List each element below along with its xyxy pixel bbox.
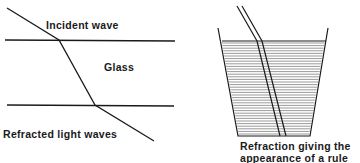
beaker-diagram — [218, 6, 328, 136]
refracted-waves-label: Refracted light waves — [3, 129, 117, 140]
ruler — [237, 6, 286, 136]
caption-line-2: appearance of a rule — [240, 153, 348, 163]
water-hatching — [222, 43, 325, 134]
glass-top-boundary — [5, 40, 175, 41]
glass-label: Glass — [104, 62, 134, 73]
incident-wave-label: Incident wave — [46, 20, 119, 31]
caption-line-1: Refraction giving the — [240, 141, 351, 152]
glass-bottom-boundary — [7, 105, 174, 106]
